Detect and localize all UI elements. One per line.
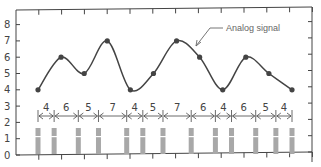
interval-label: 6 [200, 102, 206, 113]
sample-point [220, 87, 225, 92]
pulse-break [51, 136, 57, 137]
sample-point [35, 87, 40, 92]
sample-point [174, 38, 179, 43]
pulse [140, 128, 145, 154]
pulse-break [160, 136, 166, 137]
sample-point [197, 55, 202, 60]
pulse [124, 128, 129, 154]
pulse-break [289, 136, 295, 137]
sample-point [58, 55, 63, 60]
y-tick-label: 7 [4, 35, 10, 46]
pulse [160, 128, 165, 154]
pulse [36, 128, 41, 154]
sample-point [151, 71, 156, 76]
pulse-train [35, 128, 295, 154]
pulse [229, 128, 234, 154]
pulse-break [140, 136, 146, 137]
pulse [290, 128, 295, 154]
y-tick-label: 4 [4, 84, 10, 95]
pulse-break [75, 136, 81, 137]
pulse [213, 128, 218, 154]
pulse-break [124, 136, 130, 137]
pulse-break [229, 136, 235, 137]
annotation-label: Analog signal [226, 23, 280, 33]
interval-label: 7 [109, 102, 115, 113]
interval-label: 4 [43, 102, 49, 113]
interval-label: 5 [150, 102, 156, 113]
y-tick-label: 8 [4, 19, 10, 30]
sample-point [289, 87, 294, 92]
chart-canvas: 012345678 465745764654 Analog signal [0, 0, 321, 167]
y-tick-label: 0 [4, 150, 10, 161]
y-tick-label: 6 [4, 52, 10, 63]
pulse-break [273, 136, 279, 137]
pulse-break [35, 136, 41, 137]
analog-signal-annotation: Analog signal [196, 23, 280, 46]
interval-label: 5 [263, 102, 269, 113]
sample-point [266, 71, 271, 76]
interval-markers: 465745764654 [38, 102, 292, 122]
y-tick-label: 1 [4, 133, 10, 144]
pulse [253, 128, 258, 154]
pulse [189, 128, 194, 154]
pulse [96, 128, 101, 154]
sample-point [105, 38, 110, 43]
pulse-break [212, 136, 218, 137]
pulse [76, 128, 81, 154]
pulse-break [188, 136, 194, 137]
interval-label: 4 [220, 102, 226, 113]
sample-point [243, 55, 248, 60]
pulse-position-modulation-diagram: 012345678 465745764654 Analog signal [0, 0, 321, 167]
interval-label: 4 [281, 102, 287, 113]
sample-points [35, 38, 294, 92]
interval-label: 7 [174, 102, 180, 113]
pulse-break [95, 136, 101, 137]
interval-label: 6 [240, 102, 246, 113]
interval-label: 6 [63, 102, 69, 113]
y-tick-label: 3 [4, 101, 10, 112]
sample-point [128, 87, 133, 92]
pulse-break [253, 136, 259, 137]
sample-point [82, 71, 87, 76]
interval-label: 4 [132, 102, 138, 113]
y-tick-label: 2 [4, 117, 10, 128]
pulse [273, 128, 278, 154]
analog-signal-curve [38, 40, 292, 91]
interval-label: 5 [85, 102, 91, 113]
y-tick-label: 5 [4, 68, 10, 79]
pulse [52, 128, 57, 154]
